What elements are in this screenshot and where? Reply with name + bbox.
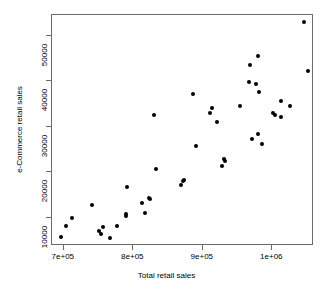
y-axis-tick-label: 50000 bbox=[40, 35, 49, 75]
data-point bbox=[279, 115, 283, 119]
data-point bbox=[179, 183, 183, 187]
data-point bbox=[256, 54, 260, 58]
data-point bbox=[208, 111, 212, 115]
data-point bbox=[210, 106, 214, 110]
x-axis-tick bbox=[271, 245, 272, 250]
x-axis-tick-label: 9e+05 bbox=[180, 252, 224, 261]
data-point bbox=[125, 185, 129, 189]
data-point bbox=[260, 142, 264, 146]
data-point bbox=[124, 212, 128, 216]
data-point bbox=[238, 104, 242, 108]
data-point bbox=[288, 104, 292, 108]
data-point bbox=[90, 203, 94, 207]
data-point bbox=[108, 236, 112, 240]
data-point bbox=[279, 99, 283, 103]
x-axis-tick bbox=[132, 245, 133, 250]
data-point bbox=[99, 232, 103, 236]
data-point bbox=[302, 20, 306, 24]
data-point bbox=[154, 167, 158, 171]
y-axis-tick-label: 40000 bbox=[40, 80, 49, 120]
data-point bbox=[306, 69, 310, 73]
data-point bbox=[148, 197, 152, 201]
x-axis-title: Total retail sales bbox=[0, 271, 333, 281]
data-point bbox=[247, 80, 251, 84]
data-point bbox=[143, 211, 147, 215]
data-point bbox=[220, 164, 224, 168]
data-point bbox=[194, 144, 198, 148]
x-axis-tick-label: 8e+05 bbox=[110, 252, 154, 261]
data-point bbox=[115, 224, 119, 228]
data-point bbox=[182, 178, 186, 182]
data-point bbox=[59, 235, 63, 239]
data-point bbox=[248, 63, 252, 67]
data-point bbox=[257, 90, 261, 94]
data-point bbox=[250, 137, 254, 141]
x-axis-tick-label: 1e+06 bbox=[249, 252, 293, 261]
plot-panel bbox=[51, 14, 313, 245]
data-point bbox=[191, 92, 195, 96]
y-axis-tick-label: 20000 bbox=[40, 171, 49, 211]
data-point bbox=[70, 216, 74, 220]
data-point bbox=[273, 113, 277, 117]
data-point bbox=[215, 120, 219, 124]
y-axis-tick-label: 10000 bbox=[40, 217, 49, 257]
data-point bbox=[64, 224, 68, 228]
x-axis-tick bbox=[202, 245, 203, 250]
data-point bbox=[101, 225, 105, 229]
x-axis-tick bbox=[63, 245, 64, 250]
scatter-plot-figure: 7e+058e+059e+051e+06 1000020000300004000… bbox=[0, 0, 333, 294]
data-point bbox=[256, 132, 260, 136]
data-point bbox=[140, 201, 144, 205]
data-point bbox=[223, 159, 227, 163]
y-axis-title: e-Commerce retail sales bbox=[14, 14, 26, 245]
data-point bbox=[152, 113, 156, 117]
data-point bbox=[254, 82, 258, 86]
y-axis-tick-label: 30000 bbox=[40, 126, 49, 166]
